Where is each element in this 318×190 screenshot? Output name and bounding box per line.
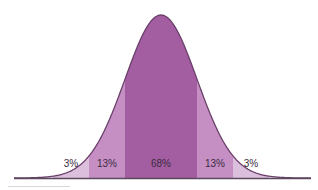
band-label-13-left: 13% xyxy=(97,158,117,169)
bell-curve-chart: 3% 13% 68% 13% 3% xyxy=(0,0,318,190)
band-label-3-left: 3% xyxy=(64,158,79,169)
band-tail-right xyxy=(269,0,310,178)
band-label-68-center: 68% xyxy=(151,158,171,169)
decorative-rule xyxy=(8,186,70,187)
band-13-left xyxy=(89,0,125,178)
band-tail-left xyxy=(15,0,53,178)
band-3-left xyxy=(53,0,89,178)
band-3-right xyxy=(233,0,269,178)
band-68-center xyxy=(125,0,197,178)
band-13-right xyxy=(197,0,233,178)
band-label-13-right: 13% xyxy=(205,158,225,169)
band-label-3-right: 3% xyxy=(244,158,259,169)
